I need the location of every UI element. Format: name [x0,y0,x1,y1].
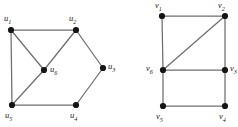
vertex-label-subscript-v6: 6 [150,68,153,75]
vertex-label-u3: u3 [108,62,115,73]
vertex-label-subscript-v4: 4 [223,116,226,123]
graph-vertex-v4 [222,103,228,109]
graph-vertex-u6 [41,67,47,73]
graph-edge-u1-u6 [11,30,44,70]
vertex-label-subscript-v2: 2 [222,5,225,12]
vertex-label-u2: u2 [69,14,76,25]
vertex-label-u6: u6 [50,65,57,76]
vertex-label-subscript-u4: 4 [74,115,77,122]
graph-vertex-v2 [222,13,228,19]
vertex-label-v3: v3 [230,64,237,75]
graph-edge-u2-u6 [44,30,76,70]
graph-vertex-v6 [160,67,166,73]
graph-vertex-v3 [222,67,228,73]
graph-right-panel: v1v2v3v4v5v6 [119,0,238,127]
graph-edge-u5-u6 [12,70,44,105]
graph-edge-v1-v6 [162,16,163,70]
vertex-label-u5: u5 [5,111,12,122]
vertex-label-v1: v1 [155,1,162,12]
graph-figure: u1u2u3u4u5u6 v1v2v3v4v5v6 [0,0,238,127]
graph-vertex-u2 [73,27,79,33]
graph-edge-u1-u5 [11,30,12,105]
graph-left-canvas [0,0,119,127]
vertex-label-u4: u4 [70,111,77,122]
graph-edge-u3-u4 [76,68,103,105]
vertex-label-subscript-u1: 1 [8,18,11,25]
vertex-label-subscript-u6: 6 [54,69,57,76]
vertex-label-v6: v6 [146,64,153,75]
vertex-label-subscript-u2: 2 [73,18,76,25]
graph-vertex-v1 [159,13,165,19]
graph-vertex-u3 [100,65,106,71]
vertex-label-subscript-v5: 5 [160,116,163,123]
vertex-label-subscript-u5: 5 [9,115,12,122]
vertex-label-subscript-v1: 1 [159,5,162,12]
vertex-label-v5: v5 [156,112,163,123]
vertex-label-subscript-v3: 3 [234,68,237,75]
graph-vertex-v5 [160,103,166,109]
graph-right-canvas [119,0,238,127]
vertex-label-u1: u1 [4,14,11,25]
graph-edge-v2-v6 [163,16,225,70]
vertex-label-subscript-u3: 3 [112,66,115,73]
graph-left-panel: u1u2u3u4u5u6 [0,0,119,127]
graph-vertex-u4 [73,102,79,108]
vertex-label-v2: v2 [218,1,225,12]
vertex-label-v4: v4 [219,112,226,123]
graph-edge-u2-u3 [76,30,103,68]
graph-vertex-u1 [8,27,14,33]
graph-vertex-u5 [9,102,15,108]
